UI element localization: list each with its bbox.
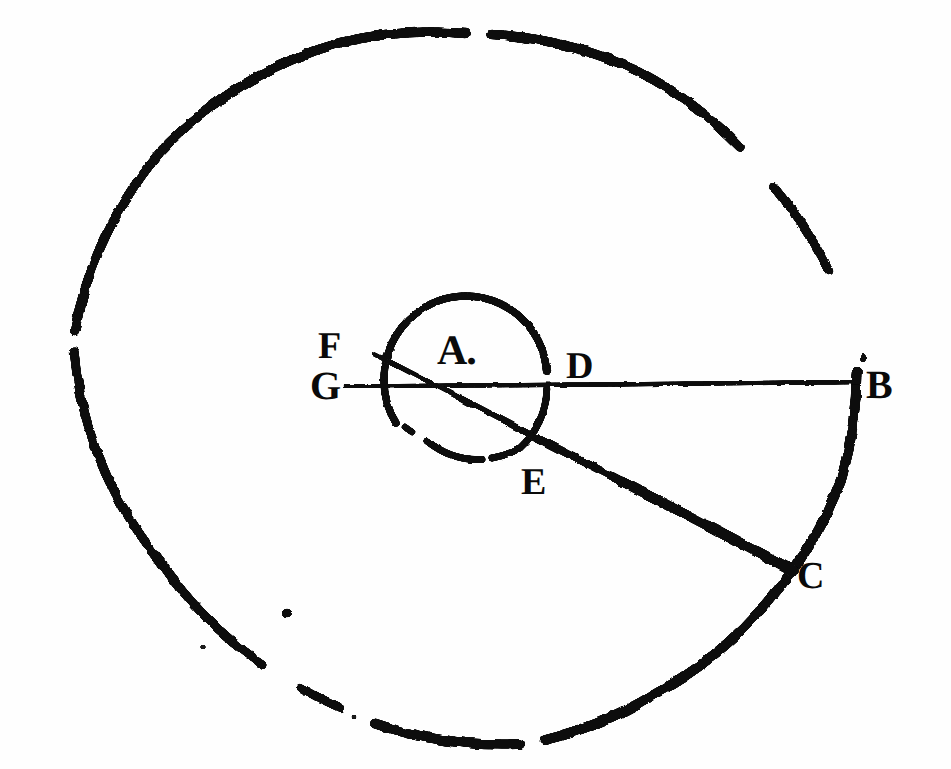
figure-page: F G A. D B E C — [0, 0, 951, 769]
outer-circle — [74, 32, 856, 744]
label-point-B: B — [866, 365, 893, 405]
line-G-to-B — [345, 382, 858, 387]
label-point-E: E — [521, 463, 546, 501]
label-point-G: G — [310, 366, 341, 406]
label-point-D: D — [566, 347, 593, 385]
geometric-figure — [0, 0, 951, 769]
ink-speck — [282, 609, 292, 617]
label-point-F: F — [318, 327, 341, 365]
inner-circle — [384, 296, 547, 460]
label-point-C: C — [797, 557, 824, 595]
ink-speck-secondary — [200, 354, 866, 719]
label-point-A: A. — [437, 330, 476, 372]
